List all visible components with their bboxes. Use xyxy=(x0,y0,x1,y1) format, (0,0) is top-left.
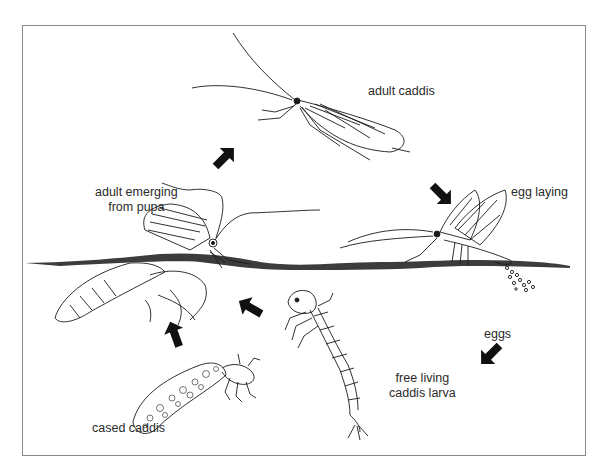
label-free-living-larva: free living caddis larva xyxy=(389,371,456,401)
illustration xyxy=(0,0,602,473)
label-adult-caddis: adult caddis xyxy=(368,84,435,99)
egg-laying-illustration xyxy=(340,190,535,292)
label-cased-caddis: cased caddis xyxy=(92,421,165,436)
label-line: from pupa xyxy=(95,200,178,215)
label-line: free living xyxy=(389,371,456,386)
label-eggs: eggs xyxy=(484,327,511,342)
label-egg-laying: egg laying xyxy=(511,185,568,200)
arrow-up-icon xyxy=(161,318,189,349)
arrow-down-right-icon xyxy=(425,178,458,211)
arrow-up-left-icon xyxy=(234,292,267,322)
water-surface xyxy=(25,253,570,270)
life-cycle-diagram: adult caddis egg laying eggs free living… xyxy=(0,0,602,473)
eggs-cluster xyxy=(505,266,534,291)
label-line: caddis larva xyxy=(389,386,456,401)
label-adult-emerging: adult emerging from pupa xyxy=(95,185,178,215)
label-line: adult emerging xyxy=(95,185,178,200)
arrow-down-left-icon xyxy=(474,338,507,371)
free-living-larva-illustration xyxy=(285,290,368,440)
arrow-up-right-icon xyxy=(208,141,241,174)
